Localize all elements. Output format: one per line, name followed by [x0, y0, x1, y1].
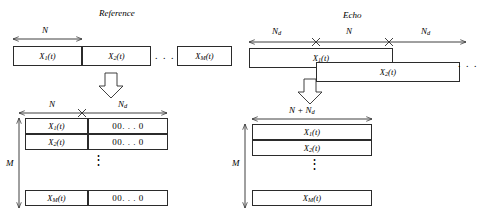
- reference-row-1-signal: X1(t): [25, 118, 88, 134]
- reference-row-m-signal-label: XM(t): [47, 193, 65, 203]
- echo-row-2-label: X2(t): [304, 143, 320, 153]
- reference-row-1-pad: 00. . . 0: [88, 118, 168, 134]
- reference-row-m-signal: XM(t): [25, 190, 88, 206]
- echo-top-ellipsis: . . .: [458, 58, 478, 69]
- reference-row-1-signal-label: X1(t): [48, 121, 64, 131]
- reference-top-ellipsis: . . .: [155, 50, 175, 61]
- echo-row-ellipsis: ⋮: [308, 162, 321, 165]
- echo-title: Echo: [343, 10, 362, 20]
- reference-row-2-pad: 00. . . 0: [88, 134, 168, 150]
- echo-bottom-dim-label: N + Nd: [289, 105, 315, 115]
- echo-top-dimension-line: [249, 38, 466, 46]
- reference-row-m-pad: 00. . . 0: [88, 190, 168, 206]
- reference-top-box-m-label: XM(t): [195, 51, 213, 61]
- echo-top-dim-nd-left: Nd: [272, 26, 281, 36]
- reference-top-box-2: X2(t): [82, 46, 151, 66]
- reference-row-1-pad-label: 00. . . 0: [112, 121, 144, 131]
- reference-row-2-signal-label: X2(t): [48, 137, 64, 147]
- echo-top-box-2-label: X2(t): [380, 67, 396, 77]
- reference-top-box-1: X1(t): [13, 46, 82, 66]
- reference-row-2-signal: X2(t): [25, 134, 88, 150]
- echo-row-2: X2(t): [252, 140, 372, 156]
- reference-top-dim-label: N: [42, 25, 48, 35]
- echo-row-1-label: X1(t): [304, 127, 320, 137]
- reference-top-box-1-label: X1(t): [39, 51, 55, 61]
- reference-bottom-dim-n: N: [49, 99, 55, 109]
- reference-title: Reference: [99, 8, 135, 18]
- echo-down-arrow: [298, 79, 322, 104]
- echo-row-m: XM(t): [252, 190, 372, 206]
- reference-row-ellipsis: ⋮: [92, 158, 105, 161]
- reference-top-box-2-label: X2(t): [108, 51, 124, 61]
- echo-row-1: X1(t): [252, 124, 372, 140]
- reference-row-m-pad-label: 00. . . 0: [112, 193, 144, 203]
- echo-top-dim-nd-right: Nd: [421, 26, 430, 36]
- echo-top-box-2: X2(t): [316, 62, 460, 82]
- echo-m-label: M: [232, 158, 240, 168]
- reference-row-2-pad-label: 00. . . 0: [112, 137, 144, 147]
- echo-top-dim-n: N: [346, 26, 352, 36]
- reference-bottom-dimension-line: [19, 109, 167, 117]
- echo-row-m-label: XM(t): [303, 193, 321, 203]
- reference-m-label: M: [6, 158, 14, 168]
- reference-top-box-m: XM(t): [177, 46, 232, 66]
- reference-down-arrow: [99, 73, 123, 98]
- reference-bottom-dim-nd: Nd: [118, 99, 127, 109]
